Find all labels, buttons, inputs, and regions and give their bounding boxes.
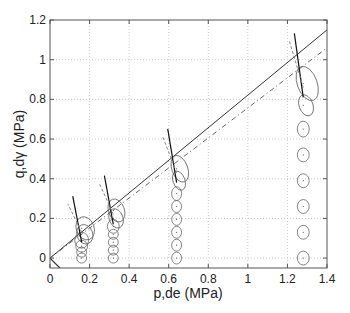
y-axis-label: q,dγ (MPa) [11, 110, 27, 178]
failure-line [50, 48, 327, 258]
y-tick-label: 1 [39, 53, 46, 67]
x-tick-label: 1.4 [319, 272, 336, 286]
y-tick-label: 0.2 [29, 211, 46, 225]
x-tick-label: 1.2 [279, 272, 296, 286]
y-tick-label: 0.6 [29, 132, 46, 146]
x-tick-label: 0.8 [200, 272, 217, 286]
stress-ellipse [292, 63, 323, 103]
x-tick-label: 0.6 [160, 272, 177, 286]
failure-line [50, 30, 327, 258]
y-tick-label: 0.4 [29, 172, 46, 186]
x-tick-label: 0.4 [121, 272, 138, 286]
x-tick-label: 0 [47, 272, 54, 286]
x-axis-label: p,de (MPa) [153, 285, 222, 301]
x-tick-label: 0.2 [81, 272, 98, 286]
chart: 00.20.40.60.811.21.400.20.40.60.811.2 p,… [0, 0, 350, 313]
plot-area [50, 30, 327, 268]
strain-direction-line [294, 33, 303, 97]
y-tick-label: 0 [39, 251, 46, 265]
x-tick-label: 1 [245, 272, 252, 286]
stress-ellipse [296, 93, 316, 118]
y-tick-label: 0.8 [29, 92, 46, 106]
y-tick-label: 1.2 [29, 13, 46, 27]
